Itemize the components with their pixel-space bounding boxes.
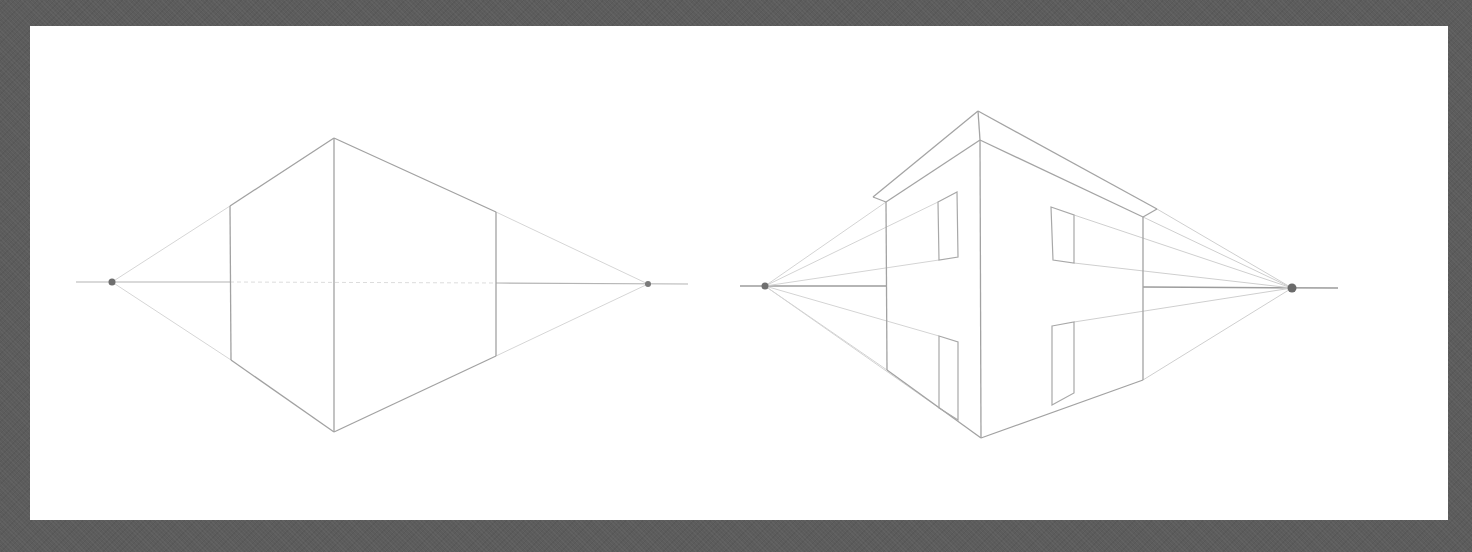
sketch-canvas: [0, 0, 1472, 552]
perspective-box: [76, 138, 688, 432]
window-left: [938, 192, 958, 260]
window-right: [1051, 207, 1074, 263]
construction-lines-right: [1074, 209, 1292, 380]
vanishing-point-right: [645, 281, 651, 287]
box-edges: [230, 138, 496, 432]
vanishing-point-left: [109, 279, 116, 286]
house-walls: [886, 140, 1143, 438]
horizon-line: [76, 282, 688, 284]
construction-lines-left: [765, 202, 939, 408]
vanishing-point-right: [1288, 284, 1297, 293]
perspective-house: [740, 111, 1338, 438]
door-right: [1052, 322, 1074, 405]
roof: [873, 111, 1157, 217]
door-left: [939, 336, 958, 420]
vanishing-point-left: [762, 283, 769, 290]
horizon-line: [740, 286, 1338, 288]
